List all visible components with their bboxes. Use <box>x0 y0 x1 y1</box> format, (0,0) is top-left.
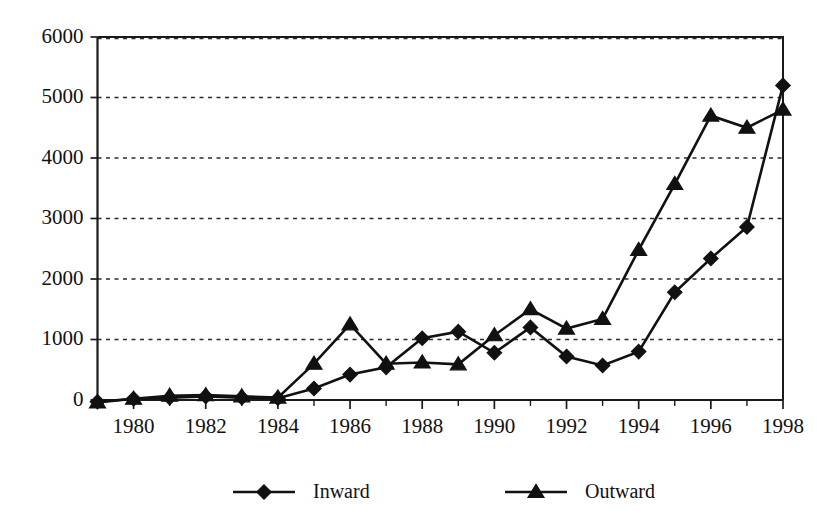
x-axis-tick-label: 1990 <box>473 414 515 438</box>
line-chart: 0100020003000400050006000 19801982198419… <box>0 0 817 528</box>
y-axis-tick-label: 4000 <box>42 145 84 169</box>
x-axis-tick-label: 1982 <box>185 414 227 438</box>
x-axis-tick-label: 1988 <box>401 414 443 438</box>
y-axis-tick-label: 0 <box>73 387 84 411</box>
chart-background <box>0 0 817 528</box>
x-axis-tick-label: 1998 <box>762 414 804 438</box>
x-axis-tick-label: 1986 <box>329 414 371 438</box>
y-axis-tick-label: 1000 <box>42 326 84 350</box>
y-axis-tick-label: 6000 <box>42 24 84 48</box>
x-axis-tick-label: 1996 <box>690 414 732 438</box>
legend-label: Inward <box>313 480 370 502</box>
chart-figure: 0100020003000400050006000 19801982198419… <box>0 0 817 528</box>
y-axis-tick-label: 5000 <box>42 84 84 108</box>
x-axis-tick-label: 1980 <box>113 414 155 438</box>
x-axis-tick-label: 1994 <box>618 414 661 438</box>
x-axis-tick-label: 1992 <box>546 414 588 438</box>
legend-label: Outward <box>585 480 655 502</box>
y-axis-tick-label: 2000 <box>42 266 84 290</box>
y-axis-tick-label: 3000 <box>42 205 84 229</box>
x-axis-tick-label: 1984 <box>257 414 300 438</box>
